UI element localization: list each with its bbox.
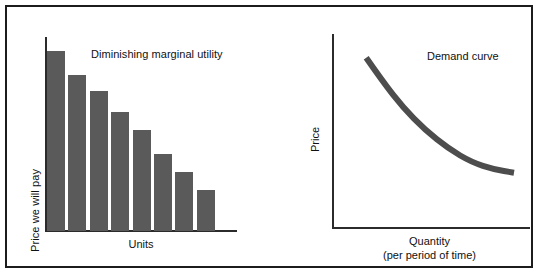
bar-2	[68, 75, 86, 231]
right-x-axis-label-line2: (per period of time)	[322, 248, 537, 262]
bar-8	[197, 190, 215, 231]
demand-curve-svg	[332, 34, 532, 229]
right-x-axis-label: Quantity (per period of time)	[322, 234, 537, 262]
bar-5	[133, 130, 151, 231]
right-x-axis-label-line1: Quantity	[322, 234, 537, 248]
outer-frame: Price we will pay Diminishing marginal u…	[5, 5, 533, 268]
bar-chart-plot-area	[47, 37, 237, 231]
bar-1	[47, 51, 65, 231]
left-y-axis-label: Price we will pay	[29, 122, 41, 252]
right-y-axis-label: Price	[309, 127, 321, 152]
figure-root: Price we will pay Diminishing marginal u…	[0, 0, 540, 278]
left-panel-title: Diminishing marginal utility	[91, 48, 223, 60]
demand-curve-line	[366, 58, 514, 173]
panel-demand-curve: Price Demand curve Quantity (per period …	[277, 7, 540, 266]
panel-diminishing-marginal-utility: Price we will pay Diminishing marginal u…	[7, 7, 277, 266]
bar-7	[175, 172, 193, 231]
right-panel-title: Demand curve	[427, 50, 499, 62]
bar-6	[154, 154, 172, 231]
bar-3	[90, 91, 108, 231]
left-x-axis-label: Units	[45, 238, 237, 250]
bar-4	[111, 112, 129, 231]
